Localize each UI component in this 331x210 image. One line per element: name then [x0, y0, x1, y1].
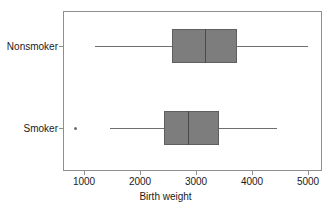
x-tick-2000 — [140, 171, 141, 175]
boxplot-chart: Nonsmoker Smoker 10002000300040005000 Bi… — [0, 0, 331, 210]
x-tick-label-3000: 3000 — [176, 176, 216, 187]
x-tick-1000 — [84, 171, 85, 175]
category-label-nonsmoker: Nonsmoker — [6, 41, 58, 52]
x-tick-label-2000: 2000 — [120, 176, 160, 187]
x-tick-label-1000: 1000 — [64, 176, 104, 187]
x-tick-4000 — [252, 171, 253, 175]
x-axis-title: Birth weight — [0, 191, 331, 202]
median-smoker — [188, 111, 189, 145]
x-tick-3000 — [196, 171, 197, 175]
category-label-smoker: Smoker — [6, 123, 58, 134]
y-tick-nonsmoker — [59, 46, 63, 47]
median-nonsmoker — [205, 29, 206, 63]
x-tick-5000 — [308, 171, 309, 175]
x-tick-label-4000: 4000 — [232, 176, 272, 187]
box-smoker — [164, 111, 219, 145]
x-tick-label-5000: 5000 — [288, 176, 328, 187]
y-tick-smoker — [59, 128, 63, 129]
